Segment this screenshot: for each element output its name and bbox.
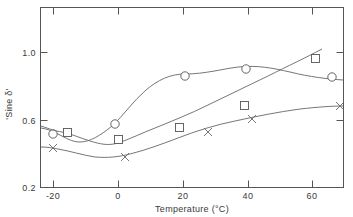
y-axis-title: 'Sine δ' <box>4 88 14 119</box>
x-tick-label-60: 60 <box>307 191 318 201</box>
data-point-square <box>241 102 249 110</box>
plot-canvas: 1.0 0.6 0.2 -20 0 20 40 60 Temperature (… <box>0 0 353 217</box>
x-tick-label-0: 0 <box>115 191 120 201</box>
data-point-square <box>64 129 72 137</box>
curve-cross-series <box>41 106 343 157</box>
data-point-circle <box>328 73 336 81</box>
x-tick-label-40: 40 <box>243 191 254 201</box>
data-point-cross <box>248 115 256 123</box>
x-tickmarks <box>54 8 313 188</box>
x-tick-label-20: 20 <box>178 191 189 201</box>
y-tickmarks <box>41 53 344 188</box>
x-axis-title: Temperature (°C) <box>155 204 229 214</box>
data-point-circle <box>242 65 250 73</box>
x-tick-label-minus20: -20 <box>46 191 60 201</box>
markers-square-series <box>64 55 320 144</box>
plot-frame <box>41 8 344 188</box>
chart-figure: 1.0 0.6 0.2 -20 0 20 40 60 Temperature (… <box>0 0 353 217</box>
markers-circle-series <box>49 65 336 138</box>
data-point-square <box>312 55 320 63</box>
y-tick-label-0p6: 0.6 <box>22 116 36 126</box>
data-point-square <box>115 136 123 144</box>
data-point-cross <box>204 128 212 136</box>
data-point-circle <box>181 72 189 80</box>
curve-circle-series <box>41 66 343 142</box>
data-point-cross <box>121 153 129 161</box>
y-tick-label-1: 1.0 <box>22 48 36 58</box>
y-tick-label-0p2: 0.2 <box>22 183 36 193</box>
data-point-square <box>176 124 184 132</box>
data-point-circle <box>111 120 119 128</box>
